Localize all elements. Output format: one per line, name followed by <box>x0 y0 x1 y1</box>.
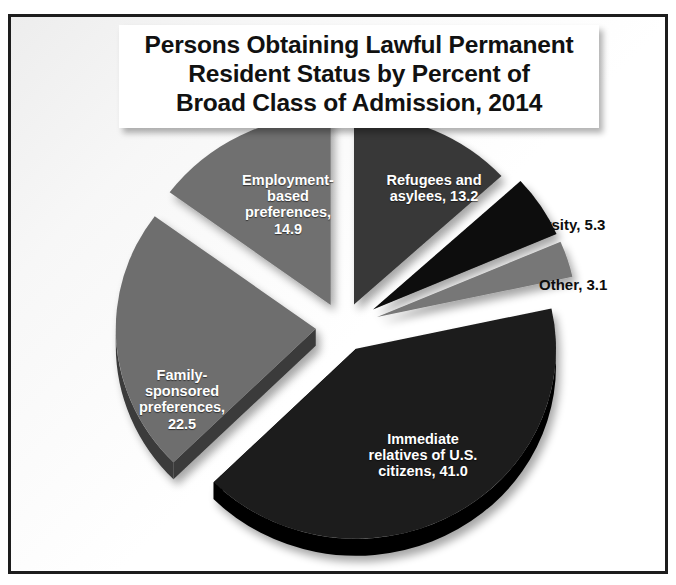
pie-chart-slide: Persons Obtaining Lawful Permanent Resid… <box>0 0 676 585</box>
slide-frame: Persons Obtaining Lawful Permanent Resid… <box>8 14 668 574</box>
chart-title-box: Persons Obtaining Lawful Permanent Resid… <box>119 25 599 128</box>
chart-title: Persons Obtaining Lawful Permanent Resid… <box>127 31 591 118</box>
slice-label-diversity: Diversity, 5.3 <box>514 217 605 234</box>
slice-label-other: Other, 3.1 <box>539 277 607 294</box>
